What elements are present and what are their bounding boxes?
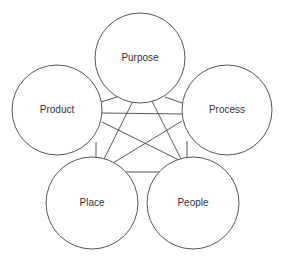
edge-purpose-process — [165, 97, 182, 103]
product-label: Product — [40, 104, 75, 115]
edge-purpose-people — [152, 101, 182, 161]
node-process: Process — [182, 65, 272, 155]
people-label: People — [177, 197, 209, 208]
node-circles: PurposeProductProcessPlacePeople — [12, 13, 272, 249]
edge-purpose-place — [103, 101, 133, 161]
node-people: People — [147, 157, 239, 249]
purpose-label: Purpose — [121, 52, 159, 63]
node-purpose: Purpose — [95, 13, 185, 103]
process-label: Process — [209, 104, 245, 115]
edge-product-people — [102, 122, 181, 161]
place-label: Place — [79, 197, 104, 208]
five-p-diagram: PurposeProductProcessPlacePeople — [0, 0, 281, 256]
edge-purpose-product — [101, 97, 117, 102]
node-place: Place — [46, 157, 138, 249]
edge-product-process — [102, 113, 182, 114]
node-product: Product — [12, 65, 102, 155]
